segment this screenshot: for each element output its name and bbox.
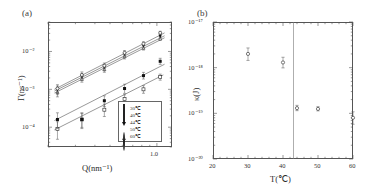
panel-a-graphics [0,0,186,190]
panel-a-legend: 30℃ 40℃ 44℃ 50℃ 60℃ [118,101,162,142]
filled-triangle-down-marker-icon [122,126,127,131]
open-circle-marker-icon [122,133,127,138]
legend-item: 40℃ [122,111,159,118]
legend-label: 50℃ [130,126,141,132]
legend-label: 40℃ [130,112,141,118]
legend-label: 30℃ [130,105,141,111]
panel-b-y-axis-title: κ(J) [191,87,201,100]
panel-a-ytick-label: 10⁻⁴ [22,123,35,131]
legend-item: 44℃ [122,118,159,125]
panel-a-x-axis-title: Q(nm⁻¹) [82,163,112,173]
panel-b-xtick-label: 20 [209,162,216,169]
panel-b-xtick-label: 60 [349,162,356,169]
panel-a: (a) 10⁻² 10⁻³ 10⁻⁴ 1.0 Q(nm⁻¹) Γ(ns⁻¹) 3… [0,0,186,190]
legend-label: 60℃ [130,133,141,139]
panel-b-ytick-label: 10⁻¹⁷ [188,18,203,26]
open-square-marker-icon [122,105,127,110]
panel-b-ytick-label: 10⁻¹⁸ [188,64,203,72]
panel-a-y-axis-title: Γ(ns⁻¹) [16,75,26,101]
figure-root: (a) 10⁻² 10⁻³ 10⁻⁴ 1.0 Q(nm⁻¹) Γ(ns⁻¹) 3… [0,0,371,190]
panel-a-ytick-label: 10⁻² [22,47,34,55]
panel-b: (b) 10⁻¹⁷ 10⁻¹⁸ 10⁻¹⁹ 10⁻²⁰ 20 30 40 50 … [185,0,371,190]
panel-b-ytick-label: 10⁻¹⁹ [188,109,203,117]
legend-item: 60℃ [122,132,159,139]
legend-item: 30℃ [122,104,159,111]
panel-b-xtick-label: 50 [314,162,321,169]
panel-a-xtick-label: 1.0 [150,150,158,157]
panel-b-xtick-label: 30 [244,162,251,169]
panel-b-x-axis-title: T(℃) [270,174,291,184]
panel-b-ytick-label: 10⁻²⁰ [188,155,203,163]
legend-label: 44℃ [130,119,141,125]
legend-item: 50℃ [122,125,159,132]
panel-b-xtick-label: 40 [279,162,286,169]
filled-square-marker-icon [122,112,127,117]
